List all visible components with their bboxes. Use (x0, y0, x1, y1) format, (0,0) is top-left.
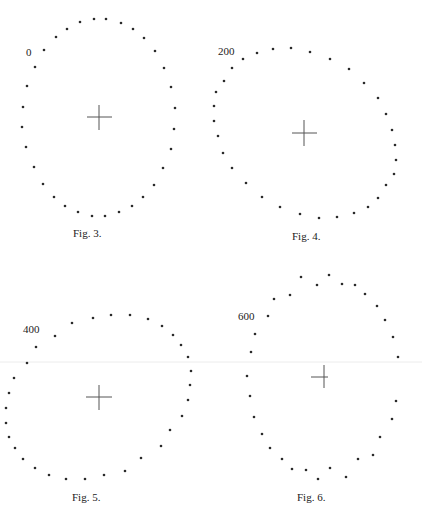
plot-dot (267, 315, 270, 318)
plot-dot (131, 205, 134, 208)
plot-dot (279, 206, 282, 209)
figure-start-label: 200 (218, 45, 235, 57)
plot-dot (385, 184, 388, 187)
plot-dot (14, 447, 17, 450)
plot-dot (93, 18, 96, 21)
plot-dot (385, 113, 388, 116)
plot-dot (71, 322, 74, 325)
plot-dot (377, 197, 380, 200)
figure-caption: Fig. 3. (73, 227, 102, 239)
plot-dot (384, 319, 387, 322)
center-cross-icon (311, 365, 328, 388)
plot-dot (13, 377, 16, 380)
plot-dot (336, 216, 339, 219)
plot-dot (55, 36, 58, 39)
plot-dot (143, 37, 146, 40)
figure-caption: Fig. 5. (72, 491, 101, 503)
plot-dot (353, 212, 356, 215)
plot-dot (253, 416, 256, 419)
plot-dot (394, 144, 397, 147)
plot-dot (364, 293, 367, 296)
figure-4: 200 Fig. 4. (213, 45, 398, 242)
plot-dot (377, 97, 380, 100)
plot-dot (354, 284, 357, 287)
plot-dot (222, 152, 225, 155)
plot-dot (231, 67, 234, 70)
plot-dot (174, 107, 177, 110)
plot-dot (395, 400, 398, 403)
plot-dot (376, 305, 379, 308)
figure-start-label: 0 (26, 46, 32, 58)
plot-dot (372, 454, 375, 457)
plot-dot (187, 356, 190, 359)
plot-dot (8, 436, 11, 439)
plot-dot (391, 418, 394, 421)
plot-dot (242, 58, 245, 61)
plot-dot (162, 167, 165, 170)
plot-dot (273, 298, 276, 301)
plot-dot (289, 294, 292, 297)
plot-dot (391, 129, 394, 132)
plot-dot (291, 468, 294, 471)
plot-dot (357, 458, 360, 461)
plot-dot (66, 28, 69, 31)
plot-dot (140, 457, 143, 460)
plot-dot (181, 415, 184, 418)
plot-dot (170, 148, 173, 151)
center-cross-icon (87, 105, 112, 130)
plot-dot (105, 18, 108, 21)
plot-dot (8, 392, 11, 395)
plot-dot (246, 375, 249, 378)
plot-dot (92, 317, 95, 320)
plot-dot (190, 370, 193, 373)
plot-dot (272, 48, 275, 51)
plot-dot (53, 196, 56, 199)
plot-dot (254, 333, 257, 336)
plot-dot (317, 478, 320, 481)
plot-dot (269, 447, 272, 450)
plot-dot (305, 469, 308, 472)
plot-dot (26, 85, 29, 88)
plot-dot (132, 28, 135, 31)
plot-dot (341, 283, 344, 286)
plot-dot (160, 445, 163, 448)
plot-dot (42, 183, 45, 186)
plot-dot (129, 314, 132, 317)
plot-dot (345, 476, 348, 479)
figure-6: 600 Fig. 6. (238, 274, 399, 503)
plot-dot (231, 167, 234, 170)
plot-dot (65, 478, 68, 481)
plot-dot (217, 135, 220, 138)
plot-dot (173, 128, 176, 131)
plot-dot (187, 399, 190, 402)
plot-dot (329, 467, 332, 470)
plot-dot (189, 384, 192, 387)
plot-dot (153, 184, 156, 187)
plot-dot (5, 422, 8, 425)
figure-plate: 0 Fig. 3. 200 Fig. 4. 400 Fig. 5. 600 Fi… (0, 0, 422, 518)
plot-dot (299, 213, 302, 216)
plot-dot (33, 166, 36, 169)
plot-dot (213, 105, 216, 108)
plot-dot (256, 52, 259, 55)
plot-dot (245, 182, 248, 185)
plot-dot (328, 274, 331, 277)
plot-dot (300, 276, 303, 279)
plot-dot (118, 211, 121, 214)
plot-dot (261, 196, 264, 199)
plot-dot (213, 120, 216, 123)
plot-dot (124, 470, 127, 473)
plot-dot (348, 68, 351, 71)
plot-dot (26, 362, 29, 365)
figure-caption: Fig. 6. (297, 491, 326, 503)
figure-3: 0 Fig. 3. (21, 18, 177, 239)
plot-dot (318, 217, 321, 220)
plot-dot (316, 284, 319, 287)
plot-dot (329, 58, 332, 61)
plot-dot (309, 51, 312, 54)
plot-dot (110, 314, 113, 317)
plot-dot (393, 173, 396, 176)
plot-dot (180, 344, 183, 347)
plot-dot (22, 458, 25, 461)
plot-dot (290, 47, 293, 50)
